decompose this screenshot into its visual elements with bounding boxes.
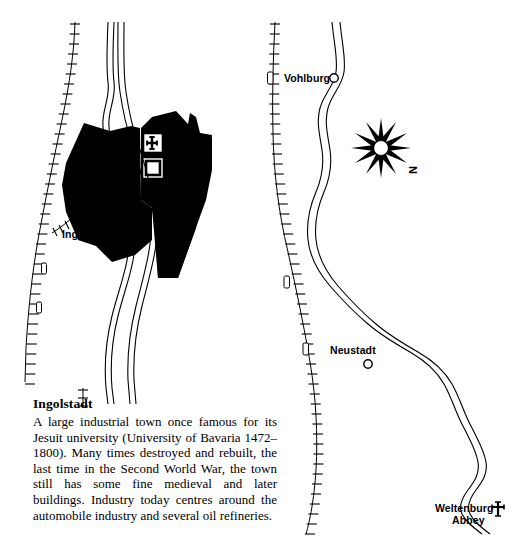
place-vohlburg: Vohlburg — [284, 72, 338, 84]
caption-block: Ingolstadt A large industrial town once … — [33, 396, 277, 523]
map-page: Ingoldstadt — [0, 0, 527, 542]
compass-center — [374, 141, 389, 156]
railway-station-marker-right-3 — [303, 343, 309, 355]
label-ingoldstadt: Ingoldstadt — [62, 228, 120, 240]
railway-station-marker-right-2 — [284, 276, 290, 288]
church-symbol — [144, 134, 162, 152]
caption-body: A large industrial town once famous for … — [33, 414, 277, 523]
label-weltenburg: Weltenburg — [435, 502, 494, 514]
railway-station-marker-right-1 — [268, 72, 274, 84]
railway-station-marker-left-1 — [42, 263, 47, 274]
caption-title: Ingolstadt — [33, 396, 277, 412]
label-neustadt: Neustadt — [330, 344, 376, 356]
circle-marker-vohlburg — [330, 74, 338, 82]
railway-station-marker-left-2 — [37, 302, 42, 313]
compass-north-label: N — [407, 166, 419, 174]
label-abbey: Abbey — [452, 514, 485, 526]
circle-marker-neustadt — [364, 360, 372, 368]
label-vohlburg: Vohlburg — [284, 72, 330, 84]
